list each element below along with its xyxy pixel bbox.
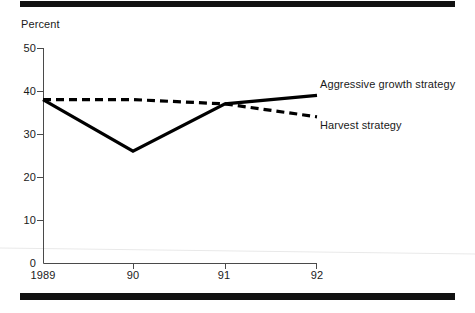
series-line-aggressive-growth-strategy xyxy=(43,95,317,151)
scan-artifact-line xyxy=(0,248,475,254)
chart-figure: Percent 50 40 30 20 10 0 1989 90 91 92 A… xyxy=(0,0,475,313)
plot-area xyxy=(0,0,475,313)
y-tick-marks xyxy=(37,49,44,221)
series-line-harvest-strategy xyxy=(43,100,317,117)
x-tick-marks xyxy=(134,264,317,270)
